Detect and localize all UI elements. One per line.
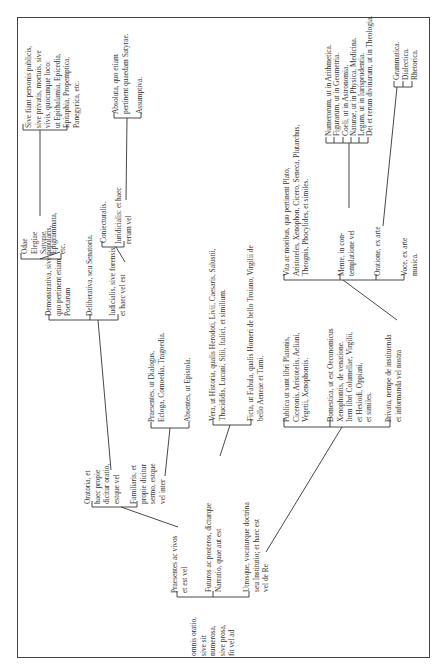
node-coniecturalis: Coniecturalis. [99, 195, 109, 243]
bracket-mente [326, 137, 368, 143]
node-publica: Publica ut sunt libri Platonis, Ciceroni… [282, 322, 311, 422]
node-futuros: Futuros ac posteros, dicturque Narratio,… [204, 452, 223, 592]
node-voce: Voce, ex arte musica. [400, 222, 419, 276]
node-rhetorica: Rhetorica. [410, 40, 420, 80]
bracket-oratione [394, 81, 412, 87]
node-oratione: Oratione, ex arte [373, 222, 383, 276]
node-ficta: Ficta, ut Fabula, qualis Homeri de bello… [246, 150, 265, 421]
node-deliberativa: Deliberativa, seu Senatoria. [85, 238, 95, 316]
connector-oratione [383, 87, 397, 226]
node-iuridicialis: Iuridicialis: et haec rerum vel [114, 176, 133, 244]
node-sive-fiant: Sive fiant personis publicis, sive priva… [24, 48, 82, 128]
node-domestica: Domestica, ut est Oeconomicus Xenophonti… [326, 312, 374, 422]
node-praesentes: Praesentes ac vivos et est vel [170, 527, 189, 593]
node-privata: Privata, nempe de instituenda et informa… [384, 316, 403, 422]
node-vera: Vera, ut Historia, qualis Herodoti, Livi… [208, 150, 227, 421]
node-vita: Vita ac moribus, quo pertinent Plato, Ar… [282, 66, 311, 276]
node-mente: Mente, in con- templatione vel [337, 206, 356, 276]
connector-utrosque [266, 427, 342, 552]
node-dei: Dei et rerum divinarum, ut in Theologia. [365, 22, 375, 136]
node-oratoria: Oratoria, et haec propie dicitur oratio,… [83, 440, 121, 504]
node-utrosque: Utrosque, vocaturque doctrina seu Instit… [242, 500, 271, 592]
node-assumptiva: Assumptiva. [135, 74, 145, 114]
node-absoluta: Absoluta, quo etiam pertinent quaedam Sa… [111, 28, 130, 114]
connector-praesentes [121, 507, 178, 527]
node-odae: Odae Elegiae Satyrae Epigrammata, etc. [20, 214, 68, 254]
bracket-familiaris [151, 422, 189, 428]
root-node: omnis oratio, sive sit numerosa, sive pr… [189, 592, 237, 656]
node-praesentes-dialogus: Praesentes, ut Dialogus, Ecloga, Comoedi… [147, 322, 166, 422]
node-demonstrativa: Demonstrativa, sive popularis, quo perti… [44, 248, 73, 316]
node-familiaris: Familiaris, et propie dicitur sermo, est… [129, 440, 167, 504]
node-iudicialis: Iudicialis, sive forensis, et haec vel e… [108, 252, 127, 316]
node-absentes: Absentes, ut Epistola. [183, 340, 193, 422]
